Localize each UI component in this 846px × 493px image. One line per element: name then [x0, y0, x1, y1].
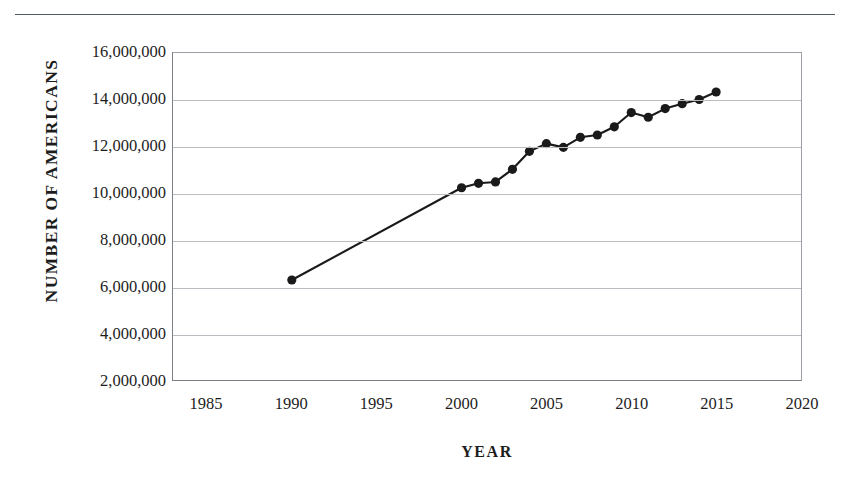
data-point-marker: [712, 87, 721, 96]
data-point-marker: [644, 113, 653, 122]
y-axis-tick-label: 12,000,000: [46, 138, 166, 155]
x-axis-tick-label: 1995: [341, 396, 411, 413]
data-point-marker: [474, 179, 483, 188]
line-series-svg: [173, 53, 801, 380]
x-axis-title: YEAR: [172, 443, 802, 461]
y-axis-tick-label: 6,000,000: [46, 279, 166, 296]
x-axis-tick-label: 1990: [256, 396, 326, 413]
data-point-marker: [627, 108, 636, 117]
page-canvas: NUMBER OF AMERICANS 2,000,0004,000,0006,…: [0, 0, 846, 493]
x-axis-tick-labels: 19851990199520002005201020152020: [172, 396, 802, 420]
y-axis-tick-label: 2,000,000: [46, 373, 166, 390]
gridline: [173, 241, 801, 242]
x-axis-tick-label: 2015: [682, 396, 752, 413]
series-line: [292, 92, 716, 280]
data-point-marker: [287, 275, 296, 284]
y-axis-tick-labels: 2,000,0004,000,0006,000,0008,000,00010,0…: [46, 52, 166, 381]
y-axis-tick-label: 10,000,000: [46, 185, 166, 202]
data-point-marker: [457, 183, 466, 192]
gridline: [173, 335, 801, 336]
x-axis-tick-label: 2005: [512, 396, 582, 413]
x-axis-tick-label: 1985: [171, 396, 241, 413]
x-axis-tick-label: 2020: [767, 396, 837, 413]
data-point-marker: [491, 177, 500, 186]
plot-area: [172, 52, 802, 381]
gridline: [173, 288, 801, 289]
series-markers: [287, 87, 720, 284]
data-point-marker: [525, 147, 534, 156]
y-axis-tick-label: 16,000,000: [46, 44, 166, 61]
data-point-marker: [508, 165, 517, 174]
source-note: [0, 482, 846, 493]
x-axis-tick-label: 2000: [426, 396, 496, 413]
y-axis-tick-label: 8,000,000: [46, 232, 166, 249]
data-point-marker: [576, 133, 585, 142]
x-axis-tick-label: 2010: [597, 396, 667, 413]
y-axis-tick-label: 4,000,000: [46, 326, 166, 343]
data-point-marker: [661, 104, 670, 113]
gridline: [173, 100, 801, 101]
data-point-marker: [610, 122, 619, 131]
chart-figure: NUMBER OF AMERICANS 2,000,0004,000,0006,…: [0, 0, 846, 493]
gridline: [173, 194, 801, 195]
data-point-marker: [593, 130, 602, 139]
gridline: [173, 147, 801, 148]
y-axis-tick-label: 14,000,000: [46, 91, 166, 108]
